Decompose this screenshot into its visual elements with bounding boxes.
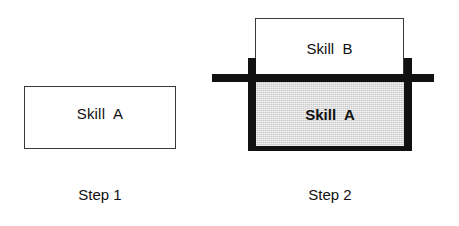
skill-b-box-step2-label: Skill B <box>255 18 404 79</box>
skill-a-box-step2-label: Skill A <box>248 78 412 151</box>
horizontal-crossbar-icon <box>212 74 434 82</box>
diagram-canvas: Skill A Step 1 Skill B Skill A Step 2 <box>0 0 459 226</box>
left-post-bar-icon <box>248 58 256 151</box>
right-post-bar-icon <box>404 58 412 151</box>
step-2-caption: Step 2 <box>255 186 405 203</box>
step-2-group: Skill B Skill A Step 2 <box>0 0 459 226</box>
